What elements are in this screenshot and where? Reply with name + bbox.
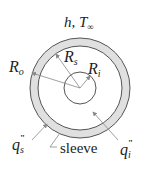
sleeve-label: sleeve xyxy=(60,140,98,156)
sleeve-cross-section-diagram: h, T∞ Ro Rs Ri q"s q"i sleeve xyxy=(0,0,145,175)
qi-label: q"i xyxy=(120,138,133,160)
qs-label: q"s xyxy=(12,133,25,155)
diagram-canvas: h, T∞ Ro Rs Ri q"s q"i sleeve xyxy=(0,0,145,175)
ro-label: Ro xyxy=(8,58,24,77)
sleeve-leader xyxy=(50,133,60,147)
convection-label: h, T∞ xyxy=(64,14,94,32)
qs-arrow xyxy=(32,124,47,140)
